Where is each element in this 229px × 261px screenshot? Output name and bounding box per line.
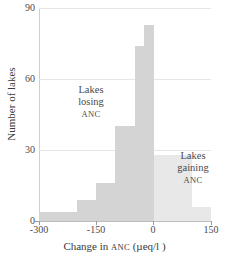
annotation-gaining-line-2: gaining: [160, 162, 226, 174]
gridline-90: [39, 8, 211, 9]
x-tick-label-150: 150: [204, 224, 219, 235]
x-axis-title-post: (µeq/l ): [130, 240, 166, 252]
annotation-gaining-line-1: Lakes: [160, 150, 226, 162]
annotation-lakes-losing: Lakes losing ANC: [60, 84, 122, 120]
bar-4: [115, 126, 134, 221]
gridline-60: [39, 79, 211, 80]
x-axis-line: [39, 221, 212, 222]
bar-6: [144, 25, 154, 221]
bar-9: [192, 207, 211, 221]
x-tick-label-0: 0: [151, 224, 156, 235]
y-tick-label-90: 90: [25, 3, 35, 13]
y-axis-title: Number of lakes: [5, 34, 17, 174]
x-axis-title-pre: Change in: [63, 240, 111, 252]
x-axis-title: Change in ANC (µeq/l ): [0, 240, 229, 252]
bar-2: [77, 200, 96, 221]
x-tick-label--150: -150: [87, 224, 105, 235]
y-tick-label-60: 60: [25, 74, 35, 84]
annotation-lakes-gaining: Lakes gaining ANC: [160, 150, 226, 186]
annotation-gaining-line-3: ANC: [160, 174, 226, 186]
y-tick-label-30: 30: [25, 145, 35, 155]
annotation-losing-line-2: losing: [60, 96, 122, 108]
bar-1: [58, 212, 77, 221]
x-axis-title-anc: ANC: [111, 242, 130, 252]
bar-5: [135, 46, 145, 221]
histogram-figure: 90 60 30 0 -300 -150 0 150 Lakes losing …: [0, 0, 229, 261]
annotation-losing-line-3: ANC: [60, 108, 122, 120]
bar-0: [39, 212, 58, 221]
x-tick-label--300: -300: [30, 224, 48, 235]
annotation-losing-line-1: Lakes: [60, 84, 122, 96]
bar-3: [96, 183, 115, 221]
